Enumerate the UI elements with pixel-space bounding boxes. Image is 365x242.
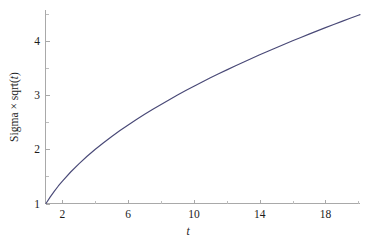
y-tick-label: 1	[34, 198, 40, 210]
chart-figure: 26101418 1234 t Sigma × sqrt(t)	[0, 0, 365, 242]
y-tick-label: 2	[34, 143, 40, 155]
x-tick-label: 14	[254, 208, 266, 220]
y-tick-label: 4	[34, 35, 40, 47]
y-axis-label-suffix: )	[8, 72, 21, 76]
y-axis-label: Sigma × sqrt(t)	[8, 72, 21, 142]
line-chart-plot: 26101418 1234 t Sigma × sqrt(t)	[0, 0, 365, 242]
plot-background	[0, 0, 365, 242]
x-tick-label: 6	[125, 208, 131, 220]
x-tick-label: 10	[188, 208, 200, 220]
x-tick-label: 18	[320, 208, 332, 220]
y-axis-label-group: Sigma × sqrt(t)	[8, 72, 21, 142]
y-axis-label-prefix: Sigma × sqrt(	[8, 79, 21, 142]
x-tick-label: 2	[60, 208, 66, 220]
y-tick-label: 3	[34, 89, 40, 101]
